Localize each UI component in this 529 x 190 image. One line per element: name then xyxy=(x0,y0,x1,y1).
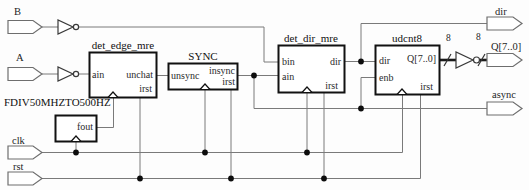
input-pin-clk[interactable] xyxy=(8,146,42,159)
inverter-triangle xyxy=(58,67,73,81)
inverter-bubble xyxy=(73,71,78,76)
output-pin-async[interactable] xyxy=(487,102,522,115)
port-udcnt8-enb: enb xyxy=(379,73,393,83)
input-label-a: A xyxy=(16,53,24,63)
port-sync-irst: irst xyxy=(222,77,235,87)
port-det-dir-irst: irst xyxy=(325,81,338,91)
block-title-fdiv: FDIV50MHZTO500HZ xyxy=(4,97,111,108)
inverter-bubble xyxy=(73,24,78,29)
output-label-async: async xyxy=(492,90,516,100)
input-pin-a[interactable] xyxy=(8,68,42,81)
block-title-det-dir-mre: det_dir_mre xyxy=(284,33,338,44)
junction-dot xyxy=(321,176,327,182)
schematic-drawing xyxy=(0,0,529,190)
output-label-dir: dir xyxy=(495,7,507,17)
input-pin-b[interactable] xyxy=(8,21,42,34)
block-title-det-edge-mre: det_edge_mre xyxy=(92,40,154,51)
port-det-edge-irst: irst xyxy=(139,84,152,94)
net-b xyxy=(42,27,279,62)
inverter-a[interactable] xyxy=(58,67,79,81)
port-udcnt8-dir: dir xyxy=(379,56,390,66)
port-det-dir-dir: dir xyxy=(330,57,341,67)
input-label-clk: clk xyxy=(12,136,25,146)
junction-dot xyxy=(358,106,364,112)
schematic-canvas: det_edge_mre SYNC det_dir_mre udcnt8 FDI… xyxy=(0,0,529,190)
port-sync-insync: insync xyxy=(209,66,235,76)
output-label-q: Q[7..0] xyxy=(491,42,521,52)
bus-width-label: 8 xyxy=(446,33,451,43)
junction-dot xyxy=(137,176,143,182)
junction-dot xyxy=(228,176,234,182)
output-pin-dir[interactable] xyxy=(487,17,522,30)
port-udcnt8-irst: irst xyxy=(420,82,433,92)
junction-dot xyxy=(358,59,364,65)
junction-dot xyxy=(202,150,208,156)
inverter-b[interactable] xyxy=(58,20,79,34)
inverter-triangle xyxy=(58,20,73,34)
output-pin-q[interactable] xyxy=(487,54,522,67)
input-label-b: B xyxy=(14,7,21,17)
port-det-edge-ain: ain xyxy=(92,70,104,80)
inverter-q[interactable] xyxy=(456,52,480,68)
block-title-udcnt8: udcnt8 xyxy=(392,33,422,44)
port-det-edge-unchat: unchat xyxy=(126,70,153,80)
inverter-bubble xyxy=(474,57,480,63)
net-insync-enb-async xyxy=(238,76,487,109)
input-pin-rst[interactable] xyxy=(8,172,42,185)
bus-width-label: 8 xyxy=(476,32,481,42)
junction-dot xyxy=(251,73,257,79)
inverter-triangle xyxy=(456,52,473,68)
port-sync-unsync: unsync xyxy=(171,71,199,81)
block-title-sync: SYNC xyxy=(188,51,217,62)
port-det-dir-bin: bin xyxy=(282,57,295,67)
junction-dot xyxy=(73,150,79,156)
junction-dot xyxy=(304,150,310,156)
input-label-rst: rst xyxy=(13,162,24,172)
port-det-dir-ain: ain xyxy=(282,72,294,82)
port-fdiv-fout: fout xyxy=(77,122,93,132)
port-udcnt8-q: Q[7..0] xyxy=(407,54,436,64)
